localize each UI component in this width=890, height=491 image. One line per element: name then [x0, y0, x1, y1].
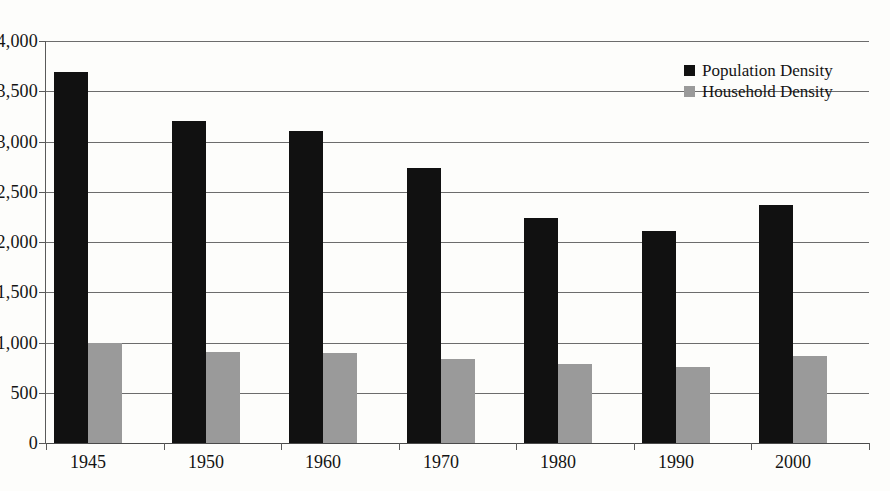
- x-tick-mark: [164, 443, 165, 450]
- y-tick-mark: [39, 393, 46, 394]
- x-tick-mark: [516, 443, 517, 450]
- y-tick-label: 2,500: [0, 183, 38, 201]
- legend-item: Population Density: [684, 60, 884, 81]
- y-tick-label: 500: [0, 384, 38, 402]
- bar-household-density-1970: [441, 359, 475, 443]
- y-tick-mark: [39, 292, 46, 293]
- legend-item: Household Density: [684, 81, 884, 102]
- bar-household-density-1980: [558, 364, 592, 443]
- y-tick-label: 2,000: [0, 233, 38, 251]
- y-tick-label: 1,500: [0, 283, 38, 301]
- x-tick-mark: [399, 443, 400, 450]
- x-tick-label: 1990: [616, 452, 736, 472]
- x-tick-mark: [281, 443, 282, 450]
- y-tick-label: 3,000: [0, 133, 38, 151]
- legend-label: Population Density: [702, 61, 833, 80]
- bar-household-density-1945: [88, 343, 122, 444]
- x-tick-label: 1945: [28, 452, 148, 472]
- y-tick-label: 3,500: [0, 82, 38, 100]
- legend-swatch-icon: [684, 86, 695, 97]
- bar-population-density-2000: [759, 205, 793, 443]
- y-tick-mark: [39, 41, 46, 42]
- bar-population-density-1990: [642, 231, 676, 443]
- bar-population-density-1960: [289, 131, 323, 443]
- legend-label: Household Density: [702, 82, 833, 101]
- bar-household-density-1990: [676, 367, 710, 443]
- y-tick-mark: [39, 192, 46, 193]
- y-tick-mark: [39, 142, 46, 143]
- x-tick-mark: [46, 443, 47, 450]
- bar-population-density-1980: [524, 218, 558, 443]
- chart-legend: Population DensityHousehold Density: [684, 60, 884, 102]
- gridline: [46, 443, 869, 444]
- x-tick-label: 1970: [381, 452, 501, 472]
- bar-population-density-1970: [407, 168, 441, 443]
- bar-household-density-2000: [793, 356, 827, 443]
- y-tick-mark: [39, 242, 46, 243]
- x-tick-label: 1950: [146, 452, 266, 472]
- x-tick-label: 1960: [263, 452, 383, 472]
- x-tick-mark: [751, 443, 752, 450]
- x-tick-label: 1980: [498, 452, 618, 472]
- x-tick-mark: [634, 443, 635, 450]
- y-tick-mark: [39, 343, 46, 344]
- y-tick-label: 0: [0, 434, 38, 452]
- y-tick-label: 4,000: [0, 32, 38, 50]
- bar-chart: 05001,0001,5002,0002,5003,0003,5004,000 …: [0, 0, 890, 491]
- y-tick-mark: [39, 443, 46, 444]
- x-tick-label: 2000: [733, 452, 853, 472]
- y-tick-mark: [39, 91, 46, 92]
- bar-household-density-1950: [206, 352, 240, 443]
- bar-household-density-1960: [323, 353, 357, 443]
- bar-population-density-1950: [172, 121, 206, 443]
- x-tick-mark: [869, 443, 870, 450]
- legend-swatch-icon: [684, 65, 695, 76]
- y-tick-label: 1,000: [0, 334, 38, 352]
- bar-population-density-1945: [54, 72, 88, 443]
